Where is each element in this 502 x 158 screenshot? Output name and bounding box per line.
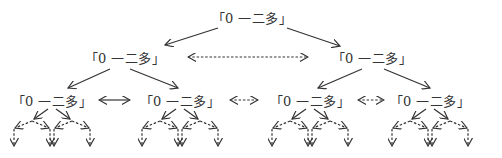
dashed-edge-arrow bbox=[15, 121, 32, 128]
tree-edge-arrow bbox=[287, 28, 340, 46]
dashed-edge-arrow bbox=[55, 121, 72, 128]
node-label-l2-left: 「0 一二多」 bbox=[85, 48, 166, 67]
tree-edge-arrow bbox=[130, 69, 178, 88]
subtree-edge-arrow bbox=[184, 109, 198, 119]
dashed-edge-arrow bbox=[143, 121, 160, 128]
node-label-l3-2: 「0 一二多」 bbox=[140, 91, 221, 110]
subtree-edge-arrow bbox=[314, 109, 328, 119]
dashed-edge-arrow bbox=[183, 121, 200, 128]
dashed-edge-arrow bbox=[410, 121, 427, 128]
tree-edge-arrow bbox=[384, 69, 430, 88]
node-label-l2-right: 「0 一二多」 bbox=[332, 48, 413, 67]
dashed-edge-arrow bbox=[72, 121, 89, 128]
node-label-root: 「0 一二多」 bbox=[212, 8, 293, 27]
dashed-edge-arrow bbox=[450, 121, 467, 128]
subtree-edge-arrow bbox=[292, 109, 306, 119]
subtree-edge-arrow bbox=[56, 109, 70, 119]
tree-edge-arrow bbox=[165, 28, 218, 45]
node-label-l3-4: 「0 一二多」 bbox=[390, 91, 471, 110]
node-label-l3-1: 「0 一二多」 bbox=[12, 91, 93, 110]
subtree-edge-arrow bbox=[412, 109, 426, 119]
dashed-edge-arrow bbox=[290, 121, 307, 128]
node-label-l3-3: 「0 一二多」 bbox=[270, 91, 351, 110]
tree-edge-arrow bbox=[318, 69, 362, 88]
dashed-edge-arrow bbox=[433, 121, 450, 128]
leaf-subtrees bbox=[14, 109, 468, 146]
dashed-edge-arrow bbox=[200, 121, 217, 128]
dashed-edge-arrow bbox=[393, 121, 410, 128]
tree-edge-arrow bbox=[68, 69, 110, 88]
dashed-edge-arrow bbox=[313, 121, 330, 128]
dashed-edge-arrow bbox=[32, 121, 49, 128]
dashed-edge-arrow bbox=[273, 121, 290, 128]
dashed-edge-arrow bbox=[330, 121, 347, 128]
subtree-edge-arrow bbox=[162, 109, 176, 119]
subtree-edge-arrow bbox=[34, 109, 48, 119]
dashed-edge-arrow bbox=[160, 121, 177, 128]
subtree-edge-arrow bbox=[434, 109, 448, 119]
